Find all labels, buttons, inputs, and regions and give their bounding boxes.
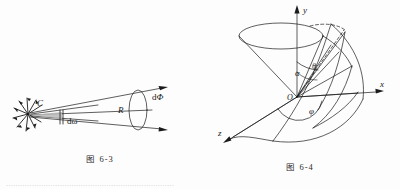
cone-edge-upper-arrowhead — [159, 86, 169, 90]
solid-angle-label: dω — [67, 116, 78, 126]
z-axis-arrowhead — [223, 136, 231, 143]
page-root: C dω R dΦ 图 6-3 — [0, 0, 400, 189]
source-label: C — [37, 98, 44, 108]
y-axis-label: y — [302, 5, 307, 15]
figure-6-4-canvas: y x z O α θ φ — [200, 0, 400, 160]
z-axis-label: z — [217, 128, 222, 138]
element-edge-b — [297, 52, 339, 97]
figure-6-4: y x z O α θ φ 图 6-4 — [200, 0, 400, 189]
x-axis-label: x — [379, 79, 384, 89]
phi-angle-arc — [278, 101, 322, 120]
cone-rim-dashed-back — [310, 24, 346, 31]
phi-angle-label: φ — [309, 106, 314, 116]
x-axis-arrowhead — [375, 89, 384, 94]
figure-6-3-caption: 图 6-3 — [0, 152, 200, 164]
wedge-meridian-2 — [313, 66, 352, 128]
flux-label: dΦ — [152, 92, 164, 102]
wedge-band-arc-1 — [323, 36, 352, 67]
sphere-outer-arc-upper — [331, 24, 364, 99]
cone-edge-lower-arrowhead — [159, 127, 168, 132]
cone-rim-ellipse — [239, 23, 323, 49]
theta-angle-label: θ — [312, 62, 316, 71]
alpha-angle-label: α — [295, 68, 300, 78]
wedge-edge-z — [233, 97, 297, 137]
radius-label: R — [117, 105, 124, 115]
figure-6-3-canvas: C dω R dΦ — [0, 0, 200, 150]
origin-label: O — [287, 93, 293, 102]
y-axis-arrowhead — [294, 5, 299, 13]
figure-6-3: C dω R dΦ 图 6-3 — [0, 0, 200, 189]
sphere-outer-arc-lower — [273, 99, 363, 142]
sphere-arc-to-z — [230, 137, 273, 141]
wedge-meridian-3 — [318, 32, 345, 110]
phi-ray — [297, 93, 358, 97]
figure-6-4-caption: 图 6-4 — [200, 160, 400, 172]
page-bottom-text: ……………………………………………………………… — [6, 180, 396, 188]
cone-side-left — [239, 36, 297, 97]
element-edge-c — [297, 66, 352, 97]
